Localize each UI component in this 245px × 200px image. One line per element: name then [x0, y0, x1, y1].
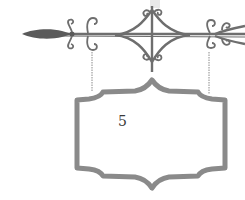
- sign-frame: [77, 80, 225, 188]
- hanging-sign-illustration: 5: [0, 0, 245, 200]
- spear-tip: [22, 29, 72, 38]
- sign-number: 5: [0, 113, 245, 129]
- wrought-iron-bracket: [0, 0, 245, 200]
